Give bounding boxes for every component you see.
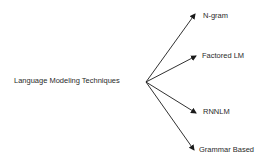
arrow-to-factored-lm [146, 56, 196, 82]
child-node-n-gram: N-gram [203, 12, 228, 20]
diagram-canvas: Language Modeling Techniques N-gram Fact… [0, 0, 276, 164]
child-node-factored-lm: Factored LM [202, 52, 244, 60]
arrow-to-grammar-based [146, 82, 194, 150]
child-node-rnnlm: RNNLM [203, 108, 230, 116]
arrow-to-n-gram [146, 14, 195, 82]
child-node-grammar-based: Grammar Based [199, 146, 254, 154]
root-node-label: Language Modeling Techniques [14, 77, 120, 85]
arrow-to-rnnlm [146, 82, 196, 113]
